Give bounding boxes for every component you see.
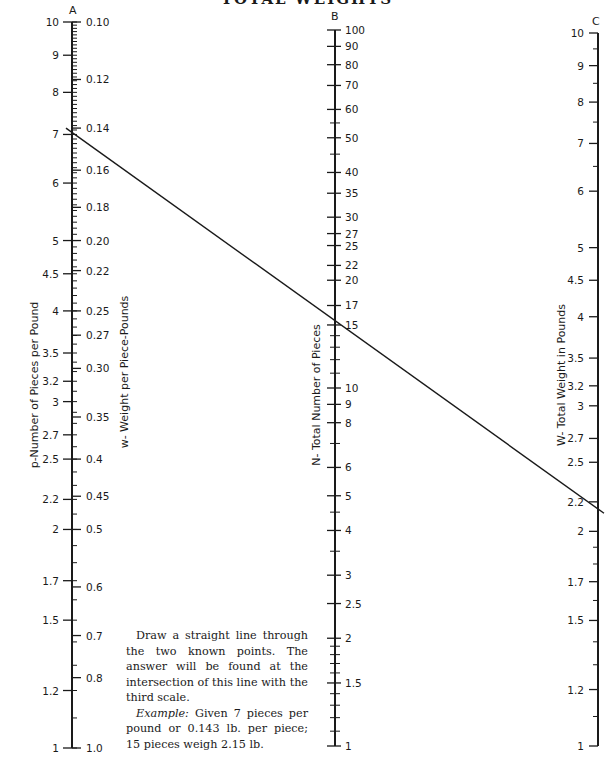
scale-c-tick-label: 1.2	[567, 684, 584, 696]
example-label: Example:	[136, 707, 189, 720]
scale-b-tick-label: 25	[345, 240, 358, 252]
scale-a-left-tick-label: 7	[52, 128, 59, 140]
scale-c-tick-label: 2.7	[567, 432, 584, 444]
scale-a-right-tick-label: 0.16	[86, 164, 110, 176]
scale-a-right-tick-label: 0.5	[86, 523, 103, 535]
scale-a-left-tick-label: 2.7	[42, 429, 59, 441]
scale-a-right-tick-label: 0.20	[86, 235, 109, 247]
scale-c-tick-label: 5	[577, 242, 584, 254]
scale-c-letter: C	[592, 15, 600, 28]
scale-b-tick-label: 35	[345, 187, 358, 199]
scale-b-tick-label: 10	[345, 382, 358, 394]
scale-b-tick-label: 9	[345, 398, 352, 410]
scale-a-right-tick-label: 0.4	[86, 453, 103, 465]
scale-a-left-tick-label: 3.2	[42, 375, 59, 387]
scale-a: A10987654.543.53.232.72.52.221.71.51.210…	[28, 4, 131, 754]
scale-b-tick-label: 60	[345, 103, 358, 115]
scale-c-tick-label: 9	[577, 60, 584, 72]
scale-b-tick-label: 22	[345, 259, 358, 271]
example-paragraph: Example: Given 7 pieces per pound or 0.1…	[126, 706, 308, 753]
scale-c-tick-label: 1.5	[567, 614, 584, 626]
scale-b: B100908070605040353027252220171510986543…	[310, 10, 365, 752]
scale-c-tick-label: 2	[577, 525, 584, 537]
scale-b-tick-label: 27	[345, 228, 358, 240]
scale-c-tick-label: 4	[577, 311, 584, 323]
scale-c-tick-label: 3.2	[567, 380, 584, 392]
scale-a-right-tick-label: 0.30	[86, 362, 109, 374]
scale-a-left-tick-label: 4.5	[42, 268, 59, 280]
scale-a-left-tick-label: 2.5	[42, 453, 59, 465]
scale-b-tick-label: 40	[345, 166, 358, 178]
scale-a-right-tick-label: 0.27	[86, 329, 109, 341]
scale-b-tick-label: 1	[345, 740, 352, 752]
scale-a-left-tick-label: 2	[52, 523, 59, 535]
scale-c-tick-label: 2.5	[567, 456, 584, 468]
scale-a-right-tick-label: 0.25	[86, 305, 109, 317]
scale-b-tick-label: 1.5	[345, 677, 362, 689]
scale-a-left-tick-label: 2.2	[42, 493, 59, 505]
scale-b-tick-label: 2	[345, 632, 352, 644]
scale-b-tick-label: 17	[345, 299, 358, 311]
scale-b-tick-label: 50	[345, 132, 358, 144]
scale-c: C10987654.543.53.232.72.52.221.71.51.21W…	[555, 15, 600, 752]
scale-a-letter: A	[69, 4, 77, 17]
scale-a-right-tick-label: 0.12	[86, 73, 109, 85]
scale-a-right-tick-label: 0.7	[86, 630, 103, 642]
scale-a-left-tick-label: 1.5	[42, 614, 59, 626]
scale-b-tick-label: 30	[345, 211, 358, 223]
scale-a-right-tick-label: 0.10	[86, 16, 109, 28]
scale-c-tick-label: 1.7	[567, 576, 584, 588]
scale-c-tick-label: 7	[577, 137, 584, 149]
scale-b-tick-label: 80	[345, 59, 358, 71]
scale-c-label: W- Total Weight in Pounds	[555, 304, 568, 446]
scale-c-tick-label: 3	[577, 400, 584, 412]
scale-a-right-tick-label: 0.6	[86, 581, 103, 593]
scale-a-right-tick-label: 0.35	[86, 411, 109, 423]
scale-a-right-tick-label: 1.0	[86, 742, 103, 754]
scale-c-tick-label: 1	[577, 740, 584, 752]
scale-b-tick-label: 5	[345, 490, 352, 502]
scale-a-left-label: p-Number of Pieces per Pound	[28, 302, 41, 469]
scale-b-tick-label: 6	[345, 461, 352, 473]
scale-a-left-tick-label: 10	[46, 16, 59, 28]
scale-b-tick-label: 8	[345, 417, 352, 429]
scale-a-left-tick-label: 1.2	[42, 685, 59, 697]
scale-a-right-tick-label: 0.8	[86, 672, 103, 684]
scale-a-left-tick-label: 5	[52, 235, 59, 247]
scale-a-left-tick-label: 3	[52, 396, 59, 408]
scale-a-right-tick-label: 0.18	[86, 201, 109, 213]
scale-a-right-tick-label: 0.14	[86, 122, 110, 134]
instructions-text: Draw a straight line through the two kno…	[126, 628, 308, 706]
scale-c-tick-label: 10	[571, 27, 584, 39]
scale-b-tick-label: 4	[345, 524, 352, 536]
instructions: Draw a straight line through the two kno…	[126, 628, 308, 752]
scale-a-left-tick-label: 6	[52, 177, 59, 189]
scale-a-left-tick-label: 8	[52, 86, 59, 98]
scale-a-right-tick-label: 0.22	[86, 265, 109, 277]
scale-a-left-tick-label: 9	[52, 49, 59, 61]
scale-a-left-tick-label: 3.5	[42, 347, 59, 359]
scale-b-tick-label: 100	[345, 24, 365, 36]
scale-a-right-tick-label: 0.45	[86, 490, 109, 502]
scale-c-tick-label: 4.5	[567, 274, 584, 286]
scale-b-tick-label: 2.5	[345, 598, 362, 610]
scale-b-tick-label: 70	[345, 79, 358, 91]
scale-a-right-label: w- Weight per Piece-Pounds	[118, 295, 131, 448]
scale-b-tick-label: 90	[345, 40, 358, 52]
scale-b-tick-label: 3	[345, 569, 352, 581]
scale-b-letter: B	[331, 10, 339, 23]
scale-c-tick-label: 6	[577, 185, 584, 197]
scale-a-left-tick-label: 4	[52, 305, 59, 317]
scale-c-tick-label: 3.5	[567, 352, 584, 364]
scale-b-label: N- Total Number of Pieces	[310, 324, 323, 466]
scale-a-left-tick-label: 1.7	[42, 575, 59, 587]
scale-a-left-tick-label: 1	[52, 742, 59, 754]
scale-c-tick-label: 8	[577, 96, 584, 108]
scale-b-tick-label: 20	[345, 274, 358, 286]
